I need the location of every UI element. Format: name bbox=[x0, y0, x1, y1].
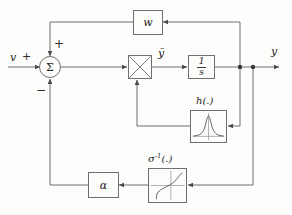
summing-junction-label: Σ bbox=[46, 61, 54, 74]
alpha-block-label: α bbox=[89, 173, 118, 197]
w-gain-block[interactable]: w bbox=[133, 10, 163, 35]
h-block-caption: h(.) bbox=[196, 96, 213, 106]
integrator-block[interactable]: 1 s bbox=[188, 55, 215, 79]
output-signal-label: y bbox=[271, 46, 277, 57]
sum-plus-sign-top: + bbox=[54, 38, 64, 50]
w-block-label: w bbox=[134, 11, 162, 34]
sigma-inverse-block[interactable] bbox=[148, 168, 187, 203]
sum-minus-sign-bottom: − bbox=[36, 84, 46, 96]
multiplier-block[interactable] bbox=[128, 55, 152, 79]
junction-dot-sigma bbox=[251, 65, 255, 69]
sigmoid-curve-plot bbox=[149, 169, 186, 202]
input-plus-sign: + bbox=[22, 51, 31, 62]
summing-junction[interactable]: Σ bbox=[39, 56, 61, 78]
alpha-gain-block[interactable]: α bbox=[88, 172, 119, 198]
input-signal-label: v bbox=[10, 52, 16, 63]
h-nonlinearity-block[interactable] bbox=[190, 110, 227, 143]
sigma-tail: (.) bbox=[161, 153, 172, 164]
sigma-inverse-caption: σ-1(.) bbox=[148, 153, 172, 164]
block-diagram-canvas: Σ 1 s w α bbox=[0, 0, 292, 215]
state-derivative-label: ỹ bbox=[158, 48, 164, 59]
multiplier-cross-icon bbox=[129, 56, 151, 78]
gaussian-bell-curve-plot bbox=[191, 111, 226, 142]
integrator-denominator: s bbox=[197, 68, 206, 77]
junction-dot-w-h bbox=[238, 65, 242, 69]
integrator-label: 1 s bbox=[189, 56, 214, 78]
sigma-symbol: σ bbox=[148, 153, 155, 164]
sigmoid-curve-path bbox=[156, 173, 182, 199]
integrator-numerator: 1 bbox=[197, 57, 207, 66]
